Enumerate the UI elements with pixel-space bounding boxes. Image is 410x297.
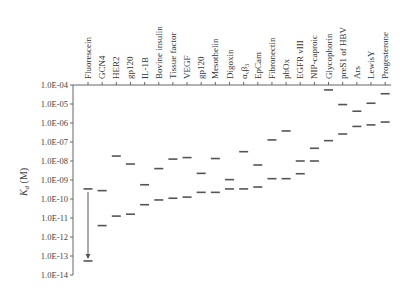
y-tick-label: 1.0E-07 xyxy=(41,137,68,147)
category-label: Bovine insulin xyxy=(154,26,164,79)
y-tick-label: 1.0E-04 xyxy=(41,80,69,90)
category-label: Tissue factor xyxy=(168,33,178,79)
y-tick-label: 1.0E-08 xyxy=(41,156,68,166)
category-label: αvβ3 xyxy=(239,64,250,79)
category-axis: FluoresceinGCN4HER2gp120IL-1BBovine insu… xyxy=(73,26,391,85)
annotations xyxy=(86,192,91,259)
y-tick-label: 1.0E-11 xyxy=(41,213,68,223)
category-label: Ars xyxy=(352,66,362,79)
category-label: EpCam xyxy=(253,52,263,79)
arrowhead-icon xyxy=(86,254,91,259)
kd-chart: 1.0E-041.0E-051.0E-061.0E-071.0E-081.0E-… xyxy=(0,0,410,297)
category-label: phOx xyxy=(281,59,291,79)
y-tick-label: 1.0E-13 xyxy=(41,251,68,261)
category-label: GCN4 xyxy=(97,55,107,79)
y-axis: 1.0E-041.0E-051.0E-061.0E-071.0E-081.0E-… xyxy=(41,80,73,280)
y-tick-label: 1.0E-12 xyxy=(41,232,68,242)
category-label: Fibronectin xyxy=(267,37,277,79)
y-tick-label: 1.0E-05 xyxy=(41,99,68,109)
category-label: NIP-caproic xyxy=(309,35,319,79)
category-label: preS1 of HBV xyxy=(338,27,348,79)
category-label: HER2 xyxy=(111,57,121,80)
y-axis-title: Kd (M) xyxy=(18,168,31,197)
category-label: EGFR vIII xyxy=(295,40,305,79)
y-tick-label: 1.0E-06 xyxy=(41,118,68,128)
category-label: gp120 xyxy=(125,56,135,79)
y-tick-label: 1.0E-14 xyxy=(41,270,69,280)
data-marks xyxy=(84,90,390,261)
category-label: Mesothelin xyxy=(210,38,220,79)
category-label: Fluorescein xyxy=(83,37,93,79)
category-label: Progesterone xyxy=(380,32,390,79)
category-label: IL-1B xyxy=(140,57,150,79)
y-tick-label: 1.0E-10 xyxy=(41,194,68,204)
category-label: LewisY xyxy=(366,50,376,79)
category-label: Glycophorin xyxy=(324,33,334,79)
category-label: Digoxin xyxy=(225,49,235,79)
category-label: VEGF xyxy=(182,55,192,79)
y-tick-label: 1.0E-09 xyxy=(41,175,68,185)
category-label: gp120 xyxy=(196,56,206,79)
